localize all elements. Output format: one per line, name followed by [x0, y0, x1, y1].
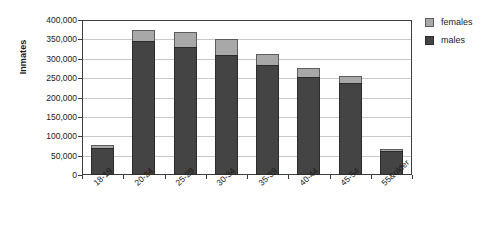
- y-axis-tick-label: 100,000: [17, 132, 77, 140]
- legend-item[interactable]: females: [425, 18, 473, 27]
- bar-group[interactable]: [297, 68, 320, 175]
- x-axis-tick-mark: [165, 175, 166, 179]
- legend-label: males: [441, 36, 465, 45]
- x-axis-tick-mark: [247, 175, 248, 179]
- x-axis-tick-mark: [206, 175, 207, 179]
- bar-segment-females[interactable]: [339, 76, 362, 83]
- bar-segment-females[interactable]: [174, 32, 197, 46]
- bar-chart: Inmates 400,000350,000300,000250,000200,…: [0, 0, 501, 227]
- legend-label: females: [441, 18, 473, 27]
- x-axis-tick-mark: [123, 175, 124, 179]
- y-axis-tick-label: 300,000: [17, 55, 77, 63]
- bar-segment-males[interactable]: [297, 77, 320, 175]
- y-axis-tick-label: 400,000: [17, 16, 77, 24]
- x-axis-tick-mark: [330, 175, 331, 179]
- bar-group[interactable]: [215, 39, 238, 175]
- legend: femalesmales: [425, 18, 473, 54]
- legend-item[interactable]: males: [425, 36, 473, 45]
- y-axis-tick-label: 200,000: [17, 94, 77, 102]
- bar-segment-females[interactable]: [380, 149, 403, 151]
- bar-series-layer: [82, 20, 412, 175]
- bar-segment-females[interactable]: [215, 39, 238, 55]
- bar-segment-males[interactable]: [256, 65, 279, 175]
- bar-segment-females[interactable]: [297, 68, 320, 77]
- y-axis-tick-label: 350,000: [17, 35, 77, 43]
- bar-group[interactable]: [256, 54, 279, 175]
- x-axis-tick-mark: [412, 175, 413, 179]
- x-axis-tick-mark: [82, 175, 83, 179]
- y-axis-tick-label: 250,000: [17, 74, 77, 82]
- bar-segment-females[interactable]: [132, 30, 155, 41]
- bar-segment-males[interactable]: [215, 55, 238, 176]
- bar-segment-males[interactable]: [132, 41, 155, 175]
- bar-group[interactable]: [339, 76, 362, 175]
- bar-segment-males[interactable]: [339, 83, 362, 175]
- x-axis-tick-mark: [288, 175, 289, 179]
- bar-group[interactable]: [174, 32, 197, 175]
- y-axis-tick-label: 150,000: [17, 113, 77, 121]
- bar-segment-females[interactable]: [256, 54, 279, 65]
- legend-swatch-males: [425, 36, 434, 45]
- bar-segment-females[interactable]: [91, 145, 114, 148]
- y-axis-tick-label: 50,000: [17, 152, 77, 160]
- bar-segment-males[interactable]: [174, 47, 197, 175]
- legend-swatch-females: [425, 18, 434, 27]
- x-axis-tick-mark: [371, 175, 372, 179]
- bar-group[interactable]: [132, 30, 155, 175]
- y-axis-tick-label: 0: [17, 171, 77, 179]
